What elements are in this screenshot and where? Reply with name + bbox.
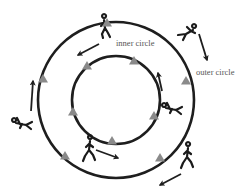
cone-icon	[38, 74, 48, 83]
cone-icon	[155, 153, 165, 162]
runner-right-icon	[162, 103, 182, 114]
arrow-top-icon	[78, 44, 99, 55]
inner-circle-label: inner circle	[116, 39, 154, 48]
cone-icon	[107, 136, 117, 145]
runner-bottom-right-icon	[181, 142, 193, 168]
arrow-right-outer-icon	[199, 34, 207, 60]
outer-circle-label: outer circle	[196, 68, 234, 77]
arrow-bottom-outer-icon	[160, 174, 181, 185]
drill-diagram	[0, 0, 248, 194]
arrow-bottom-inner-icon	[96, 150, 118, 158]
cones	[38, 18, 191, 162]
arrow-left-icon	[31, 81, 33, 111]
cone-icon	[68, 107, 78, 116]
runner-left-icon	[12, 118, 32, 129]
runner-top-right-icon	[178, 24, 196, 40]
